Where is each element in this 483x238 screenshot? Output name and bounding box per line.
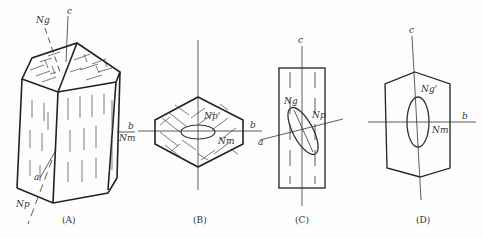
label-c: c: [67, 6, 72, 16]
label-b: b: [462, 111, 468, 121]
caption-a: (A): [62, 215, 76, 225]
label-ng-prime: Ng': [420, 84, 437, 94]
label-nm: Nm: [118, 133, 135, 143]
crystal-optics-figure: c Ng b Nm a Np (A) Np' Nm b (B): [0, 0, 483, 238]
caption-b: (B): [193, 215, 207, 225]
label-a: a: [258, 137, 263, 147]
panel-d: c Ng' Nm b (D): [368, 25, 476, 225]
caption-d: (D): [416, 215, 430, 225]
panel-a: c Ng b Nm a Np (A): [15, 6, 135, 225]
cleavage-hatch: [160, 104, 238, 160]
figure-canvas: c Ng b Nm a Np (A) Np' Nm b (B): [0, 0, 483, 238]
a-axis: [260, 119, 343, 140]
label-nm: Nm: [431, 125, 448, 135]
hexagon-section: [155, 97, 243, 167]
label-np: Np: [311, 110, 326, 120]
c-axis: [66, 16, 68, 62]
label-a: a: [34, 172, 39, 182]
label-ng: Ng: [35, 15, 50, 25]
cleavage-lines-side: [30, 94, 112, 182]
panel-c: c Ng Np a (C): [258, 35, 343, 225]
label-np: Np: [15, 199, 30, 209]
label-ng: Ng: [283, 96, 298, 106]
caption-c: (C): [295, 215, 309, 225]
label-nm: Nm: [217, 136, 234, 146]
label-np-prime: Np': [203, 111, 220, 121]
label-c: c: [409, 25, 414, 35]
label-c: c: [298, 35, 303, 45]
label-b: b: [128, 121, 134, 131]
panel-b: Np' Nm b (B): [138, 40, 262, 225]
label-b: b: [250, 120, 256, 130]
